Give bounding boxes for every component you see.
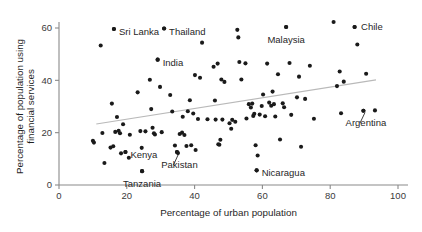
data-point-labeled: [353, 25, 357, 29]
data-point: [263, 114, 267, 118]
data-point: [216, 62, 220, 66]
data-point: [160, 130, 164, 134]
data-point: [229, 127, 233, 131]
data-point: [151, 126, 155, 130]
data-point: [338, 69, 342, 73]
data-point: [364, 72, 368, 76]
data-point-labeled: [175, 150, 179, 154]
data-point: [168, 93, 172, 97]
data-point: [218, 138, 222, 142]
data-point: [205, 117, 209, 121]
data-point: [136, 90, 140, 94]
data-point: [191, 112, 195, 116]
data-point: [273, 114, 277, 118]
data-point-labeled: [156, 58, 160, 62]
point-label: Thailand: [169, 26, 205, 37]
data-point: [282, 105, 286, 109]
data-point: [186, 109, 190, 113]
data-point: [198, 76, 202, 80]
x-axis-title: Percentage of urban population: [160, 207, 297, 218]
data-point: [128, 133, 132, 137]
data-point: [272, 102, 276, 106]
data-point: [119, 151, 123, 155]
data-point: [182, 133, 186, 137]
data-point: [213, 98, 217, 102]
data-point: [189, 143, 193, 147]
data-point: [196, 117, 200, 121]
data-point: [153, 132, 157, 136]
data-point: [339, 111, 343, 115]
data-point: [158, 85, 162, 89]
data-point: [170, 109, 174, 113]
data-point: [121, 122, 125, 126]
data-point: [143, 129, 147, 133]
data-point: [297, 75, 301, 79]
data-point: [118, 131, 122, 135]
data-point-labeled: [112, 27, 116, 31]
data-point: [335, 84, 339, 88]
annotation-leader-lines-layer: [173, 112, 365, 165]
data-point: [111, 144, 115, 148]
y-tick-label: 40: [41, 75, 52, 86]
data-point: [115, 115, 119, 119]
data-point: [92, 141, 96, 145]
data-point: [227, 121, 231, 125]
axis-ticks-layer: 0204060801000204060: [41, 22, 406, 201]
data-point: [194, 148, 198, 152]
data-point: [236, 35, 240, 39]
data-point: [249, 106, 253, 110]
data-point: [308, 64, 312, 68]
data-point: [276, 72, 280, 76]
data-point: [138, 129, 142, 133]
trend-line: [96, 80, 376, 124]
data-point-labeled: [123, 150, 127, 154]
data-point: [149, 107, 153, 111]
x-tick-label: 100: [390, 190, 406, 201]
data-point: [258, 113, 262, 117]
data-point: [184, 144, 188, 148]
data-point: [193, 73, 197, 77]
y-tick-label: 20: [41, 127, 52, 138]
data-point: [239, 78, 243, 82]
chart-canvas: 0204060801000204060 Sri LankaThailandInd…: [0, 0, 422, 232]
data-point: [99, 43, 103, 47]
data-point: [220, 118, 224, 122]
y-tick-label: 0: [47, 179, 52, 190]
data-point: [295, 95, 299, 99]
data-point-labeled: [255, 168, 259, 172]
x-tick-label: 20: [122, 190, 133, 201]
data-point: [260, 104, 264, 108]
data-point: [303, 97, 307, 101]
data-point: [252, 112, 256, 116]
data-point: [256, 153, 260, 157]
point-label: Malaysia: [267, 34, 305, 45]
x-tick-label: 60: [257, 190, 268, 201]
data-point: [299, 145, 303, 149]
data-point: [212, 65, 216, 69]
data-point: [342, 80, 346, 84]
y-tick-label: 60: [41, 22, 52, 33]
point-label: Nicaragua: [262, 167, 306, 178]
data-point: [100, 131, 104, 135]
data-point: [222, 80, 226, 84]
data-point: [188, 98, 192, 102]
data-point: [237, 60, 241, 64]
point-label: Kenya: [130, 149, 158, 160]
data-point: [287, 61, 291, 65]
point-label: Argentina: [346, 117, 387, 128]
data-point: [254, 143, 258, 147]
data-point: [244, 116, 248, 120]
data-point: [200, 41, 204, 45]
trend-line-layer: [96, 80, 376, 124]
data-point: [289, 113, 293, 117]
data-point: [148, 78, 152, 82]
data-point: [373, 108, 377, 112]
y-axis-title-line2: financial services: [25, 69, 36, 144]
data-point: [261, 92, 265, 96]
data-point-labeled: [162, 26, 166, 30]
data-point: [217, 143, 221, 147]
point-label: Sri Lanka: [119, 26, 160, 37]
point-label: India: [163, 57, 184, 68]
point-label: Pakistan: [161, 159, 197, 170]
x-tick-label: 0: [56, 190, 61, 201]
